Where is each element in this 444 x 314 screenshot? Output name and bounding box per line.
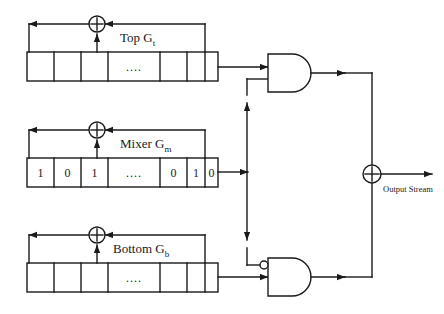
diagram-canvas: Top Gt .... Mixer Gm 1 0 1 .... 0 1 0 Bo… (0, 0, 444, 314)
mixer-cell-0: 1 (27, 166, 54, 181)
and-gate-top-shape (268, 54, 311, 92)
and-gate-bottom-shape (260, 258, 311, 296)
feedback-loop-top (29, 16, 205, 52)
diagram-vector-layer (0, 0, 444, 314)
mixer-cell-5: 1 (187, 166, 205, 181)
register-label-bottom: Bottom Gb (113, 241, 169, 259)
xor-output-shape (363, 165, 381, 183)
register-label-top: Top Gt (120, 30, 155, 48)
mixer-cell-4: 0 (160, 166, 187, 181)
register-bottom-cell-ellipsis: .... (108, 271, 160, 286)
mixer-cell-2: 1 (81, 166, 108, 181)
feedback-loop-mixer (29, 122, 205, 158)
mixer-cell-6: 0 (205, 166, 218, 181)
output-stream-label: Output Stream (383, 184, 433, 194)
mixer-cell-ellipsis: .... (108, 166, 160, 181)
register-top-cell-ellipsis: .... (108, 60, 160, 75)
mixer-distribution-bus (247, 79, 268, 265)
register-label-mixer: Mixer Gm (120, 136, 171, 154)
mixer-cell-1: 0 (54, 166, 81, 181)
